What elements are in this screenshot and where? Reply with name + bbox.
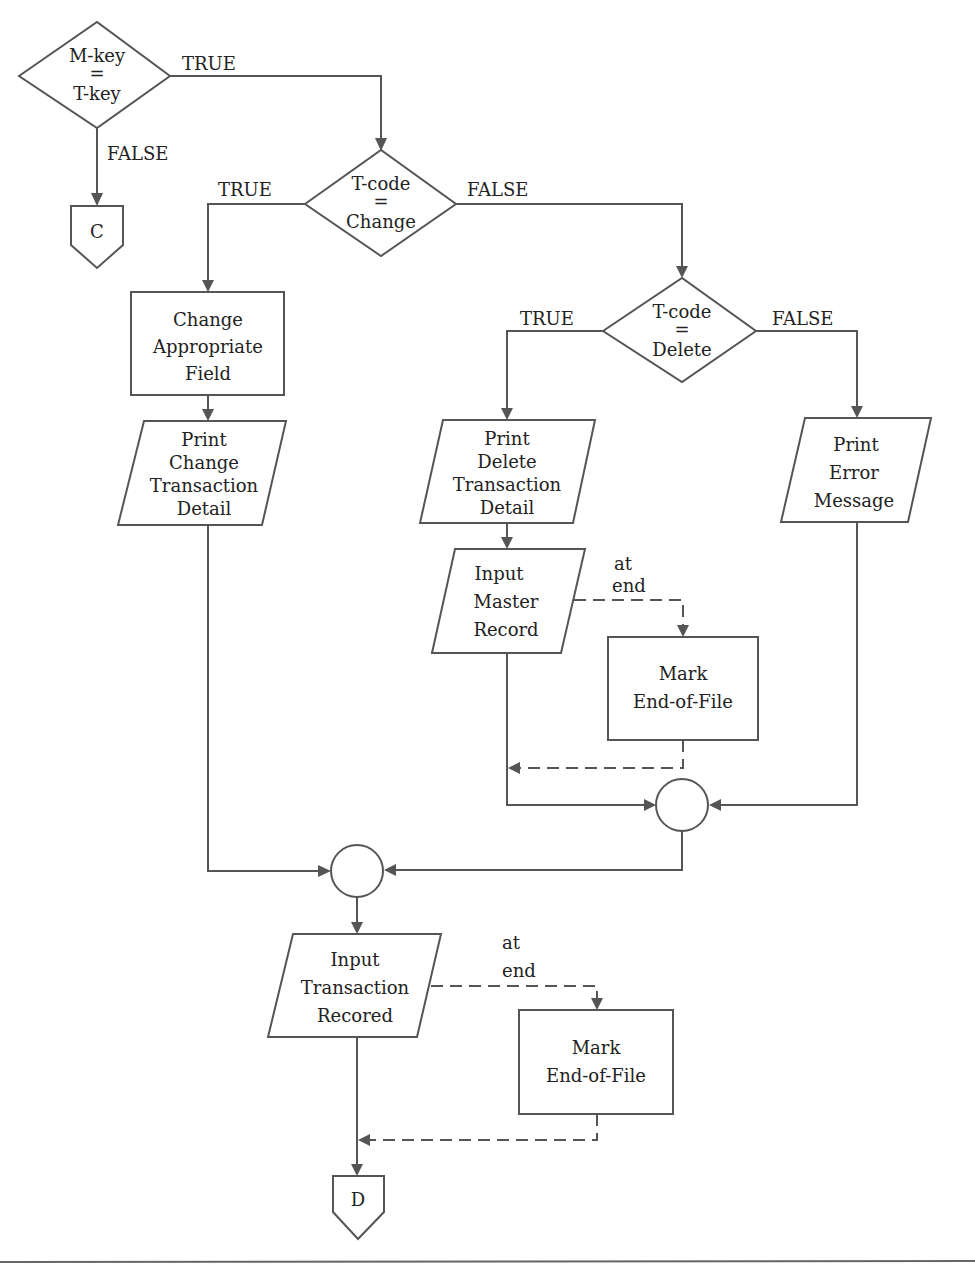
process-mark-eof-master-line1: Mark	[659, 663, 709, 684]
decision-tcode-equals-change: T-code = Change	[305, 150, 456, 256]
io-print-change-line3: Transaction	[150, 475, 259, 496]
flow-mark-eof-master-return	[518, 740, 683, 768]
offpage-connector-c: C	[71, 206, 123, 268]
io-input-transaction-line3: Recored	[317, 1005, 393, 1026]
decision-delete-line3: Delete	[652, 339, 711, 360]
arrowhead-icon	[677, 625, 689, 637]
process-mark-eof-transaction-line2: End-of-File	[546, 1065, 646, 1086]
arrowhead-icon	[709, 799, 721, 811]
flow-delete-true	[507, 331, 603, 409]
io-print-change-transaction-detail: Print Change Transaction Detail	[118, 421, 286, 525]
arrowhead-icon	[351, 922, 363, 934]
io-print-change-line1: Print	[181, 429, 227, 450]
junction-connector-upper	[656, 779, 708, 831]
flow-change-true	[208, 204, 305, 282]
arrowhead-icon	[501, 537, 513, 549]
io-print-delete-line2: Delete	[477, 451, 536, 472]
flow-transaction-at-end	[431, 986, 597, 999]
decision-change-line2: =	[373, 191, 388, 212]
flow-change-false	[456, 204, 682, 267]
arrowhead-icon	[508, 762, 520, 774]
process-mark-eof-transaction-line1: Mark	[572, 1037, 622, 1058]
io-input-transaction-line2: Transaction	[301, 977, 410, 998]
arrowhead-icon	[676, 266, 688, 278]
io-print-error-line1: Print	[833, 434, 879, 455]
arrowhead-icon	[318, 865, 331, 877]
flow-delete-false	[756, 331, 857, 407]
arrowhead-icon	[384, 864, 396, 876]
arrowhead-icon	[202, 280, 214, 292]
flow-mark-eof-transaction-return	[368, 1114, 597, 1140]
io-print-delete-transaction-detail: Print Delete Transaction Detail	[420, 420, 595, 523]
io-input-transaction-record: Input Transaction Recored	[268, 934, 441, 1037]
process-mark-eof-master-line2: End-of-File	[633, 691, 733, 712]
io-print-delete-line1: Print	[484, 428, 530, 449]
io-input-master-line3: Record	[473, 619, 538, 640]
arrowhead-icon	[351, 1164, 363, 1176]
arrowhead-icon	[501, 408, 513, 420]
decision-mkey-line3: T-key	[73, 83, 121, 104]
label-trans-at: at	[502, 932, 521, 953]
arrowhead-icon	[202, 409, 214, 421]
process-mark-eof-transaction: Mark End-of-File	[519, 1010, 673, 1114]
decision-delete-line2: =	[674, 319, 689, 340]
label-change-false: FALSE	[467, 179, 528, 200]
decision-mkey-line2: =	[89, 63, 104, 84]
process-change-line3: Field	[185, 363, 231, 384]
label-change-true: TRUE	[218, 179, 272, 200]
io-input-master-line1: Input	[474, 563, 524, 584]
flow-mkey-true	[170, 76, 381, 140]
label-delete-true: TRUE	[520, 308, 574, 329]
io-input-master-line2: Master	[474, 591, 539, 612]
arrowhead-icon	[851, 406, 863, 418]
offpage-connector-d: D	[333, 1176, 384, 1239]
label-master-end: end	[612, 575, 646, 596]
io-print-error-message: Print Error Message	[781, 418, 931, 522]
label-mkey-true: TRUE	[182, 53, 236, 74]
junction-connector-lower	[331, 845, 383, 897]
io-print-change-line2: Change	[169, 452, 239, 473]
process-change-line2: Appropriate	[152, 336, 263, 357]
label-trans-end: end	[502, 960, 536, 981]
io-print-change-line4: Detail	[177, 498, 232, 519]
arrowhead-icon	[358, 1134, 370, 1146]
flow-print-change-to-junction	[208, 525, 320, 871]
label-master-at: at	[614, 553, 633, 574]
process-change-line1: Change	[173, 309, 243, 330]
io-input-transaction-line1: Input	[330, 949, 380, 970]
arrowhead-icon	[591, 998, 603, 1010]
process-change-appropriate-field: Change Appropriate Field	[131, 292, 284, 395]
decision-mkey-equals-tkey: M-key = T-key	[19, 22, 170, 128]
process-mark-eof-master: Mark End-of-File	[608, 637, 758, 740]
io-print-error-line2: Error	[829, 462, 879, 483]
label-delete-false: FALSE	[772, 308, 833, 329]
flow-upper-junction-to-lower	[395, 831, 682, 870]
arrowhead-icon	[644, 799, 656, 811]
io-print-delete-line4: Detail	[480, 497, 535, 518]
decision-tcode-equals-delete: T-code = Delete	[603, 278, 756, 382]
io-print-error-line3: Message	[814, 490, 894, 511]
io-print-delete-line3: Transaction	[453, 474, 562, 495]
io-input-master-record: Input Master Record	[432, 549, 585, 653]
arrowhead-icon	[91, 193, 103, 206]
label-mkey-false: FALSE	[107, 143, 168, 164]
connector-c-label: C	[90, 221, 104, 242]
connector-d-label: D	[351, 1189, 365, 1210]
page-divider	[0, 1261, 975, 1262]
flow-master-at-end	[574, 600, 683, 627]
flowchart-canvas: M-key = T-key TRUE FALSE C T-code = Chan…	[0, 0, 975, 1275]
decision-change-line3: Change	[346, 211, 416, 232]
